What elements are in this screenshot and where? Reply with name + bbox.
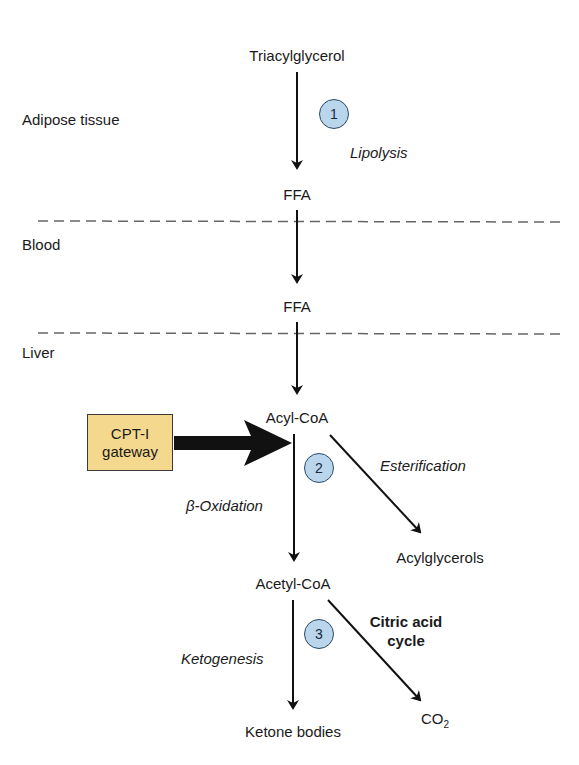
cpt-i-gateway-box: CPT-I gateway (87, 414, 173, 471)
node-ffa-blood: FFA (283, 299, 311, 314)
step-2-badge: 2 (304, 453, 334, 483)
node-acetyl-coa: Acetyl-CoA (255, 576, 330, 591)
step-3-badge: 3 (304, 619, 334, 649)
node-ffa-adipose: FFA (283, 187, 311, 202)
node-triacylglycerol: Triacylglycerol (249, 48, 344, 63)
region-blood-label: Blood (22, 237, 60, 252)
region-liver-label: Liver (22, 345, 55, 360)
process-citric-acid-line1: Citric acid (370, 614, 443, 629)
process-ketogenesis: Ketogenesis (181, 651, 264, 666)
divider-blood-liver (38, 333, 560, 334)
gateway-line1: CPT-I (111, 425, 149, 443)
node-ketone-bodies: Ketone bodies (245, 724, 341, 739)
divider-adipose-blood (38, 221, 560, 222)
step-1-badge: 1 (319, 99, 349, 129)
process-esterification: Esterification (380, 458, 466, 473)
node-acyl-coa: Acyl-CoA (266, 410, 329, 425)
node-co2: CO2 (421, 711, 449, 730)
process-citric-acid-line2: cycle (387, 633, 425, 648)
region-adipose-label: Adipose tissue (22, 112, 120, 127)
process-beta-oxidation: β-Oxidation (186, 498, 263, 513)
arrow-esterification (330, 435, 420, 532)
node-acylglycerols: Acylglycerols (396, 550, 484, 565)
gateway-line2: gateway (102, 443, 158, 461)
gateway-arrow-shaft (174, 436, 254, 450)
process-lipolysis: Lipolysis (350, 145, 408, 160)
